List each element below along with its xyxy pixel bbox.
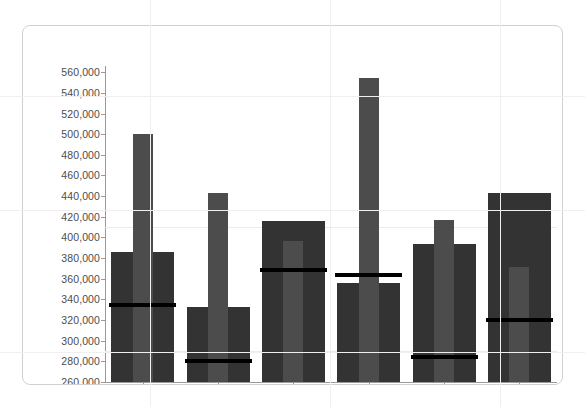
y-tick-mark xyxy=(101,72,105,73)
y-tick-label: 460,000 xyxy=(61,169,100,181)
y-tick-mark xyxy=(101,341,105,342)
y-tick-mark xyxy=(101,361,105,362)
bar-inner-measure[interactable] xyxy=(133,134,153,382)
y-tick-mark xyxy=(101,93,105,94)
y-tick-label: 520,000 xyxy=(61,108,100,120)
y-tick-mark xyxy=(101,155,105,156)
target-marker-line xyxy=(109,303,176,307)
target-marker-line xyxy=(411,355,478,359)
y-tick-mark xyxy=(101,134,105,135)
bar-group[interactable] xyxy=(111,66,174,382)
x-tick-mark xyxy=(293,382,294,385)
y-tick-mark xyxy=(101,258,105,259)
y-tick-label: 280,000 xyxy=(61,355,100,367)
y-tick-label: 500,000 xyxy=(61,128,100,140)
bar-inner-measure[interactable] xyxy=(509,267,529,382)
bar-group[interactable] xyxy=(187,66,250,382)
y-axis-line xyxy=(105,66,106,382)
y-tick-label: 480,000 xyxy=(61,149,100,161)
chart-plot-area: 260,000280,000300,000320,000340,000360,0… xyxy=(105,66,557,382)
y-tick-mark xyxy=(101,237,105,238)
bar-inner-measure[interactable] xyxy=(359,78,379,382)
y-tick-label: 260,000 xyxy=(61,376,100,385)
y-tick-mark xyxy=(101,320,105,321)
target-marker-line xyxy=(335,273,402,277)
x-tick-mark xyxy=(444,382,445,385)
bar-group[interactable] xyxy=(413,66,476,382)
y-tick-mark xyxy=(101,175,105,176)
target-marker-line xyxy=(260,268,327,272)
bar-group[interactable] xyxy=(262,66,325,382)
x-tick-mark xyxy=(369,382,370,385)
y-tick-label: 560,000 xyxy=(61,66,100,78)
target-marker-line xyxy=(185,359,252,363)
x-tick-mark xyxy=(143,382,144,385)
y-tick-mark xyxy=(101,299,105,300)
y-tick-mark xyxy=(101,196,105,197)
y-tick-mark xyxy=(101,217,105,218)
bar-inner-measure[interactable] xyxy=(283,241,303,382)
y-tick-mark xyxy=(101,279,105,280)
bar-group[interactable] xyxy=(337,66,400,382)
y-tick-label: 440,000 xyxy=(61,190,100,202)
y-tick-label: 320,000 xyxy=(61,314,100,326)
y-tick-mark xyxy=(101,114,105,115)
y-tick-label: 300,000 xyxy=(61,335,100,347)
x-tick-mark xyxy=(519,382,520,385)
y-tick-label: 360,000 xyxy=(61,273,100,285)
y-tick-label: 420,000 xyxy=(61,211,100,223)
y-tick-label: 540,000 xyxy=(61,87,100,99)
bar-inner-measure[interactable] xyxy=(208,193,228,382)
x-axis-line xyxy=(105,382,557,383)
y-tick-label: 380,000 xyxy=(61,252,100,264)
y-tick-mark xyxy=(101,382,105,383)
target-marker-line xyxy=(486,318,553,322)
chart-card: 260,000280,000300,000320,000340,000360,0… xyxy=(22,25,563,385)
y-tick-label: 400,000 xyxy=(61,231,100,243)
bar-group[interactable] xyxy=(488,66,551,382)
y-tick-label: 340,000 xyxy=(61,293,100,305)
x-tick-mark xyxy=(218,382,219,385)
